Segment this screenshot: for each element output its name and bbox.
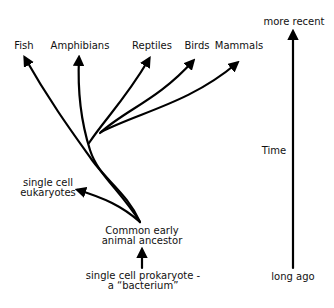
time-axis-top-label: more recent (263, 16, 324, 27)
eukaryotes-label-line2: eukaryotes (20, 187, 76, 198)
branch-reptiles (89, 59, 149, 143)
branch-mammals (101, 63, 237, 132)
time-axis-middle-label: Time (261, 145, 286, 156)
ancestor-label-line2: animal ancestor (102, 235, 183, 246)
branch-amphibians (79, 58, 140, 222)
taxon-label-fish: Fish (14, 40, 33, 51)
time-axis-bottom-label: long ago (271, 271, 314, 282)
prokaryote-label-line2: a “bacterium” (108, 280, 179, 291)
taxon-label-reptiles: Reptiles (132, 40, 172, 51)
evolution-diagram: Fish Amphibians Reptiles Birds Mammals s… (0, 0, 334, 308)
taxon-label-amphibians: Amphibians (51, 40, 110, 51)
branch-birds (100, 61, 193, 133)
taxon-label-mammals: Mammals (215, 40, 263, 51)
taxon-label-birds: Birds (184, 40, 209, 51)
